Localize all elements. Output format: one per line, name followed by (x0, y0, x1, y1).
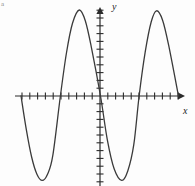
x-axis-label: x (183, 106, 187, 116)
plot-canvas (0, 0, 195, 186)
graph-figure: a y x (0, 0, 195, 186)
y-axis-label: y (112, 2, 116, 12)
